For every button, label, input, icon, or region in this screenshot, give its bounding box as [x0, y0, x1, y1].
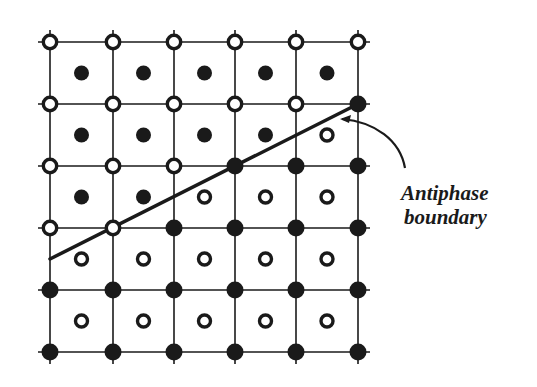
filled-atom-icon: [288, 220, 305, 237]
open-atom-icon: [199, 315, 211, 327]
label-line-1: Antiphase: [399, 181, 489, 205]
filled-atom-icon: [74, 128, 89, 143]
open-atom-icon: [321, 191, 333, 203]
open-atom-icon: [106, 159, 119, 172]
open-atom-icon: [43, 97, 56, 110]
filled-atom-icon: [320, 66, 335, 81]
open-atom-icon: [199, 191, 211, 203]
open-atom-icon: [167, 97, 180, 110]
open-atom-icon: [351, 35, 364, 48]
filled-atom-icon: [227, 344, 244, 361]
filled-atom-icon: [288, 282, 305, 299]
antiphase-diagram: Antiphase boundary: [0, 0, 537, 387]
open-atom-icon: [43, 221, 56, 234]
open-atom-icon: [76, 315, 88, 327]
open-atom-icon: [228, 97, 241, 110]
open-atom-icon: [199, 253, 211, 265]
filled-atom-icon: [136, 190, 151, 205]
filled-atom-icon: [227, 282, 244, 299]
filled-atom-icon: [288, 158, 305, 175]
filled-atom-icon: [136, 66, 151, 81]
open-atom-icon: [289, 97, 302, 110]
filled-atom-icon: [258, 66, 273, 81]
open-atom-icon: [167, 159, 180, 172]
filled-atom-icon: [42, 282, 59, 299]
filled-atom-icon: [42, 344, 59, 361]
filled-atom-icon: [350, 158, 367, 175]
filled-atom-icon: [166, 344, 183, 361]
filled-atom-icon: [258, 128, 273, 143]
open-atom-icon: [260, 253, 272, 265]
open-atom-icon: [138, 253, 150, 265]
open-atom-icon: [321, 129, 333, 141]
filled-atom-icon: [350, 96, 367, 113]
open-atom-icon: [321, 315, 333, 327]
open-atom-icon: [43, 159, 56, 172]
label-line-2: boundary: [404, 205, 488, 229]
filled-atom-icon: [74, 190, 89, 205]
antiphase-boundary-line: [50, 104, 358, 259]
filled-atom-icon: [227, 158, 244, 175]
open-atom-icon: [106, 35, 119, 48]
open-atom-icon: [321, 253, 333, 265]
arrow-head-icon: [340, 115, 351, 123]
open-atom-icon: [43, 35, 56, 48]
filled-atom-icon: [166, 282, 183, 299]
filled-atom-icon: [166, 220, 183, 237]
open-atom-icon: [228, 35, 241, 48]
open-atom-icon: [289, 35, 302, 48]
open-atom-icon: [106, 221, 119, 234]
open-atom-icon: [260, 191, 272, 203]
filled-atom-icon: [350, 282, 367, 299]
filled-atom-icon: [136, 128, 151, 143]
open-atom-icon: [76, 253, 88, 265]
filled-atom-icon: [105, 344, 122, 361]
filled-atom-icon: [288, 344, 305, 361]
filled-atom-icon: [350, 344, 367, 361]
filled-atom-icon: [227, 220, 244, 237]
filled-atom-icon: [350, 220, 367, 237]
open-atom-icon: [167, 35, 180, 48]
open-atom-icon: [138, 315, 150, 327]
open-atom-icon: [260, 315, 272, 327]
filled-atom-icon: [74, 66, 89, 81]
filled-atom-icon: [197, 66, 212, 81]
filled-atom-icon: [197, 128, 212, 143]
filled-atom-icon: [105, 282, 122, 299]
open-atom-icon: [106, 97, 119, 110]
